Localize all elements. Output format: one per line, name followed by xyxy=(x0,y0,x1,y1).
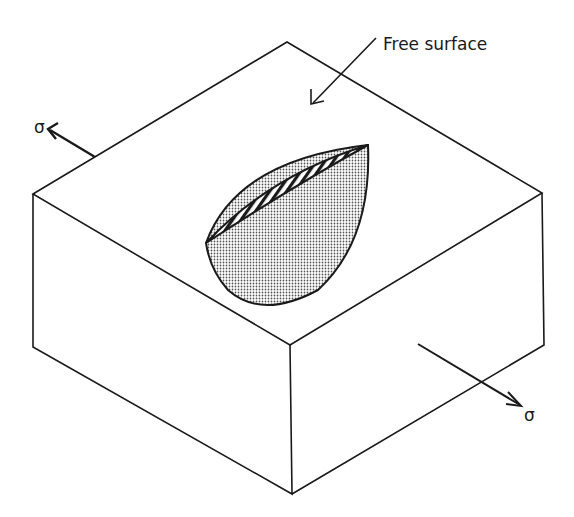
stress-arrow-right xyxy=(418,344,521,406)
free-surface-label: Free surface xyxy=(383,34,487,54)
stress-label-right: σ xyxy=(524,405,535,425)
stress-label-left: σ xyxy=(34,117,45,137)
free-surface-arrow xyxy=(311,38,376,104)
stress-arrow-left xyxy=(48,123,95,157)
crack-diagram: Free surface σ σ xyxy=(0,0,574,517)
